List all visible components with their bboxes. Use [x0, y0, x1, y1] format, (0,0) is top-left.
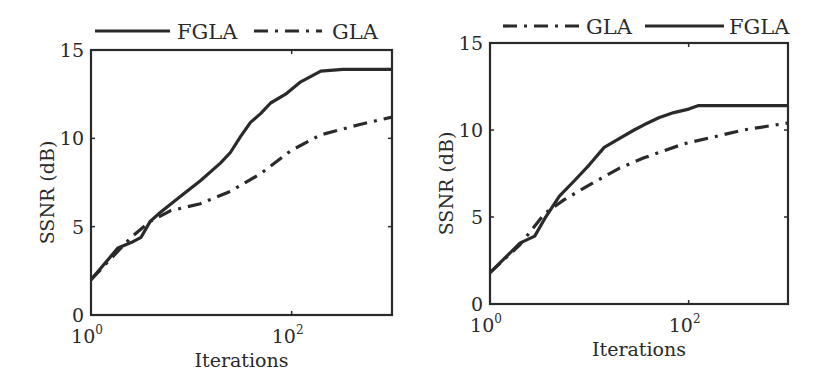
legend: GLAFGLA — [503, 15, 790, 39]
plot-area — [91, 69, 392, 279]
axes-frame — [490, 43, 788, 304]
y-tick-label: 0 — [471, 293, 483, 315]
x-axis-label: Iterations — [195, 349, 289, 371]
x-tick-label: 102 — [272, 323, 304, 347]
x-tick-label: 100 — [470, 312, 502, 336]
series-line-gla — [490, 123, 788, 273]
y-tick-label: 15 — [459, 32, 483, 54]
legend: FGLAGLA — [95, 20, 379, 44]
chart-canvas: 051015100102IterationsSSNR (dB)FGLAGLA05… — [0, 0, 818, 383]
y-axis-label: SSNR (dB) — [36, 141, 58, 245]
series-line-gla — [91, 117, 392, 280]
legend-label-gla: GLA — [332, 20, 379, 44]
y-tick-label: 0 — [72, 304, 84, 326]
legend-label-fgla: FGLA — [177, 20, 238, 44]
y-tick-label: 5 — [72, 216, 84, 238]
y-axis-label: SSNR (dB) — [435, 132, 457, 236]
x-tick-label: 100 — [71, 323, 103, 347]
y-tick-label: 15 — [60, 39, 84, 61]
series-line-fgla — [490, 106, 788, 273]
figure: 051015100102IterationsSSNR (dB)FGLAGLA05… — [0, 0, 818, 383]
legend-label-fgla: FGLA — [729, 15, 790, 39]
axes-frame — [91, 50, 392, 315]
legend-label-gla: GLA — [586, 15, 633, 39]
y-tick-label: 10 — [459, 119, 483, 141]
chart-panel-1: 051015100102IterationsSSNR (dB)FGLAGLA — [36, 20, 392, 371]
series-line-fgla — [91, 69, 392, 279]
x-axis-label: Iterations — [592, 338, 686, 360]
chart-panel-2: 051015100102IterationsSSNR (dB)GLAFGLA — [435, 15, 790, 360]
x-tick-label: 102 — [669, 312, 701, 336]
y-tick-label: 10 — [60, 127, 84, 149]
y-tick-label: 5 — [471, 206, 483, 228]
plot-area — [490, 106, 788, 273]
